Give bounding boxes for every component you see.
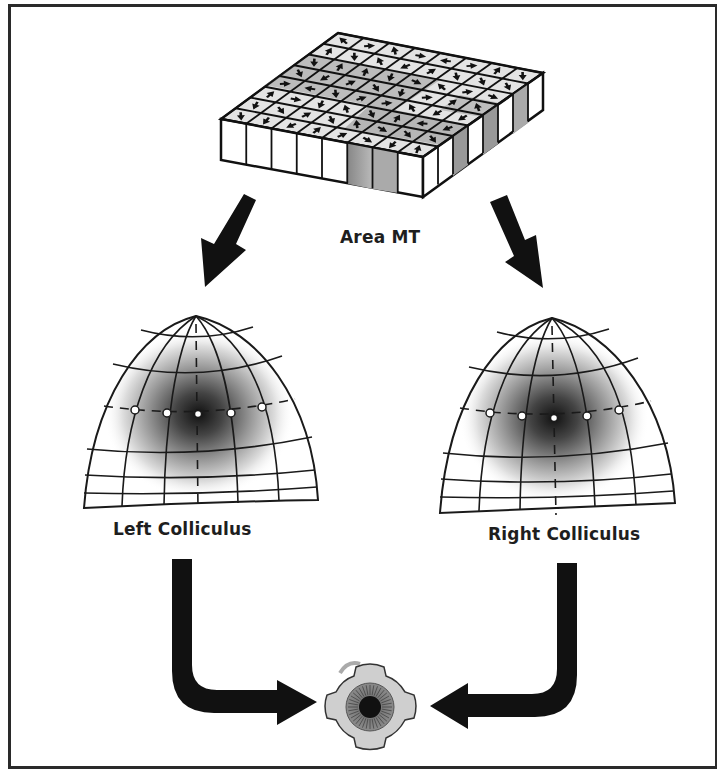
eye-icon <box>325 663 416 749</box>
right-colliculus-map <box>440 318 675 515</box>
arrow-right-colliculus-to-eye <box>430 563 577 729</box>
arrow-mt-to-left <box>201 194 256 287</box>
arrow-mt-to-right <box>490 195 543 288</box>
right-colliculus-label: Right Colliculus <box>488 524 640 544</box>
left-colliculus-map <box>84 316 318 510</box>
diagram-canvas <box>0 0 723 778</box>
area-mt-label: Area MT <box>340 227 420 247</box>
area-mt-block <box>221 33 543 198</box>
arrow-left-colliculus-to-eye <box>172 559 317 725</box>
left-colliculus-label: Left Colliculus <box>113 519 252 539</box>
